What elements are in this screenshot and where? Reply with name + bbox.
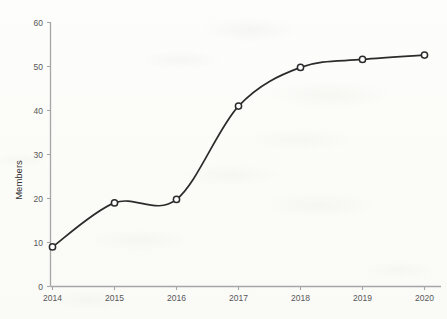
y-tick-label-0: 0 — [38, 282, 43, 292]
data-point-2018 — [297, 64, 303, 70]
line-chart: 0 10 20 30 40 50 60 2014 2015 2016 2017 … — [0, 0, 447, 319]
y-tick-label-20: 20 — [34, 194, 44, 204]
y-tick-label-50: 50 — [34, 62, 44, 72]
chart-page: 0 10 20 30 40 50 60 2014 2015 2016 2017 … — [0, 0, 447, 319]
data-series-line — [53, 55, 425, 247]
y-axis-title: Members — [13, 160, 24, 200]
data-point-2016 — [173, 196, 179, 202]
data-point-2019 — [359, 56, 365, 62]
x-tick-label-2017: 2017 — [229, 293, 248, 303]
y-tick-label-40: 40 — [34, 106, 44, 116]
x-tick-label-2019: 2019 — [353, 293, 372, 303]
data-point-2017 — [235, 103, 241, 109]
data-point-2020 — [421, 52, 427, 58]
y-tick-label-30: 30 — [34, 150, 44, 160]
x-tick-label-2014: 2014 — [43, 293, 62, 303]
x-tick-label-2020: 2020 — [415, 293, 434, 303]
x-tick-label-2018: 2018 — [291, 293, 310, 303]
x-tick-label-2016: 2016 — [167, 293, 186, 303]
x-tick-label-2015: 2015 — [105, 293, 124, 303]
data-point-markers — [49, 52, 427, 250]
data-point-2015 — [111, 200, 117, 206]
data-point-2014 — [49, 244, 55, 250]
y-tick-label-60: 60 — [34, 18, 44, 28]
y-tick-label-10: 10 — [34, 238, 44, 248]
